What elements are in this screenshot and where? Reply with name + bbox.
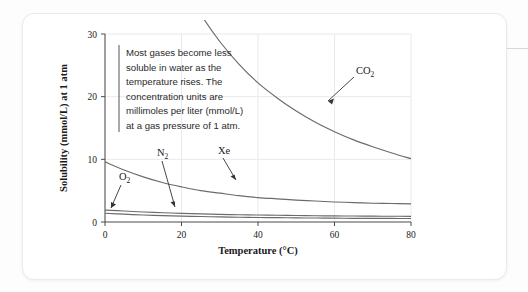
y-tick-labels: 0102030 xyxy=(88,30,98,228)
callout-line-5: millimoles per liter (mmol/L) xyxy=(126,105,243,116)
svg-text:Xe: Xe xyxy=(218,145,231,156)
y-tick-20: 20 xyxy=(88,92,98,102)
series-label-xe: Xe xyxy=(218,145,236,180)
figure-card: 0102030 020406080 Solubility (mmol/L) at… xyxy=(22,13,507,280)
x-tick-0: 0 xyxy=(103,230,108,240)
callout-line-6: at a gas pressure of 1 atm. xyxy=(126,120,240,131)
x-tick-40: 40 xyxy=(253,230,263,240)
x-tick-60: 60 xyxy=(330,230,340,240)
svg-text:O2: O2 xyxy=(119,171,131,185)
callout-line-1: Most gases become less xyxy=(126,47,232,58)
x-tick-20: 20 xyxy=(177,230,187,240)
y-tick-10: 10 xyxy=(88,155,98,165)
y-tick-0: 0 xyxy=(92,218,97,228)
svg-text:CO2: CO2 xyxy=(356,65,375,79)
callout-line-3: temperature rises. The xyxy=(126,76,222,87)
screenshot-root: 0102030 020406080 Solubility (mmol/L) at… xyxy=(0,0,528,292)
solubility-chart: 0102030 020406080 Solubility (mmol/L) at… xyxy=(23,14,506,279)
x-axis-title: Temperature (°C) xyxy=(218,245,298,257)
callout-line-2: soluble in water as the xyxy=(126,62,221,73)
y-tick-30: 30 xyxy=(88,30,98,40)
callout-line-4: concentration units are xyxy=(126,91,223,102)
x-tick-labels: 020406080 xyxy=(103,230,416,240)
series-label-o2: O2 xyxy=(111,171,131,208)
series-label-n2: N2 xyxy=(157,147,175,207)
x-tick-80: 80 xyxy=(406,230,416,240)
y-axis-title: Solubility (mmol/L) at 1 atm xyxy=(58,64,70,192)
